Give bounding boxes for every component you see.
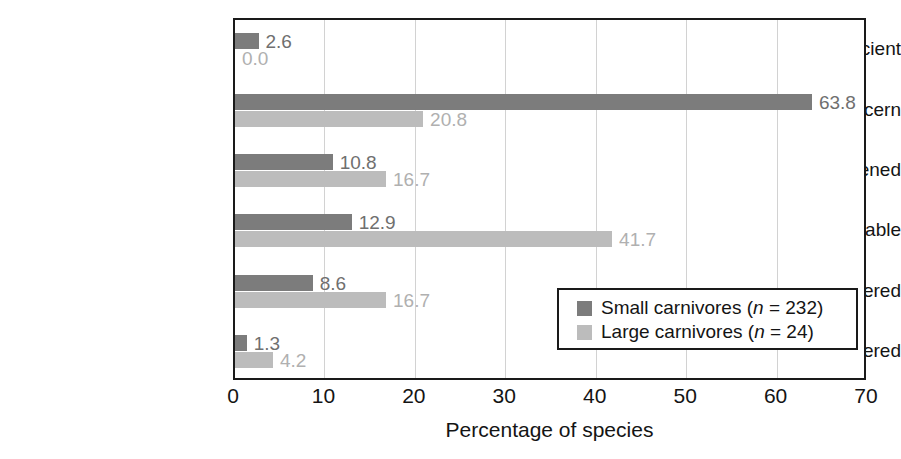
legend-swatch-large-carnivores <box>577 325 592 340</box>
x-tick-10: 10 <box>293 384 353 408</box>
bar-small-carnivores <box>235 154 333 170</box>
bar-large-carnivores <box>235 292 386 308</box>
bar-large-carnivores <box>235 231 612 247</box>
x-tick-30: 30 <box>474 384 534 408</box>
bar-group: 12.941.7 <box>235 214 864 248</box>
value-label-small-carnivores: 2.6 <box>266 32 292 51</box>
x-tick-0: 0 <box>203 384 263 408</box>
bar-small-carnivores <box>235 33 259 49</box>
bar-small-carnivores <box>235 94 812 110</box>
legend-label-large-carnivores: Large carnivores (n = 24) <box>601 321 814 343</box>
value-label-small-carnivores: 10.8 <box>340 153 377 172</box>
value-label-large-carnivores: 41.7 <box>619 230 656 249</box>
bar-small-carnivores <box>235 335 247 351</box>
bar-small-carnivores <box>235 214 352 230</box>
legend-item-small-carnivores: Small carnivores (n = 232) <box>577 296 856 320</box>
legend-label-small-carnivores: Small carnivores (n = 232) <box>601 297 823 319</box>
x-axis-title: Percentage of species <box>233 418 866 442</box>
value-label-small-carnivores: 63.8 <box>819 93 856 112</box>
x-tick-40: 40 <box>565 384 625 408</box>
grouped-bar-chart: Data DeficientLeast ConcernNear Threaten… <box>0 0 901 459</box>
value-label-large-carnivores: 4.2 <box>280 351 306 370</box>
legend-swatch-small-carnivores <box>577 301 592 316</box>
gridline-10 <box>324 20 325 378</box>
bar-group: 2.60.0 <box>235 33 864 67</box>
bar-group: 10.816.7 <box>235 154 864 188</box>
x-tick-50: 50 <box>655 384 715 408</box>
value-label-small-carnivores: 8.6 <box>320 274 346 293</box>
value-label-large-carnivores: 20.8 <box>430 110 467 129</box>
value-label-large-carnivores: 16.7 <box>393 291 430 310</box>
x-tick-60: 60 <box>746 384 806 408</box>
bar-small-carnivores <box>235 275 313 291</box>
value-label-small-carnivores: 12.9 <box>359 213 396 232</box>
bar-group: 63.820.8 <box>235 94 864 128</box>
legend: Small carnivores (n = 232) Large carnivo… <box>557 288 858 350</box>
value-label-small-carnivores: 1.3 <box>254 334 280 353</box>
gridline-30 <box>505 20 506 378</box>
gridline-20 <box>415 20 416 378</box>
bar-large-carnivores <box>235 171 386 187</box>
value-label-large-carnivores: 0.0 <box>242 49 268 68</box>
bar-large-carnivores <box>235 352 273 368</box>
x-tick-70: 70 <box>836 384 896 408</box>
value-label-large-carnivores: 16.7 <box>393 170 430 189</box>
bar-large-carnivores <box>235 111 423 127</box>
legend-item-large-carnivores: Large carnivores (n = 24) <box>577 320 856 344</box>
plot-area: 2.60.063.820.810.816.712.941.78.616.71.3… <box>233 18 866 380</box>
x-tick-20: 20 <box>384 384 444 408</box>
